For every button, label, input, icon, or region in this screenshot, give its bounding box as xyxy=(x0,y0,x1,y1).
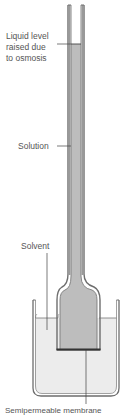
solution-fill xyxy=(60,44,97,349)
label-liquid-level-line1: Liquid level xyxy=(6,31,49,42)
label-solution: Solution xyxy=(18,141,49,152)
label-membrane: Semipermeable membrane xyxy=(5,405,102,416)
label-liquid-level-line2: raised due xyxy=(6,42,49,53)
label-solvent: Solvent xyxy=(21,241,49,252)
semipermeable-membrane xyxy=(57,349,101,351)
label-liquid-level-line3: to osmosis xyxy=(6,53,49,64)
label-liquid-level: Liquid level raised due to osmosis xyxy=(6,31,49,64)
